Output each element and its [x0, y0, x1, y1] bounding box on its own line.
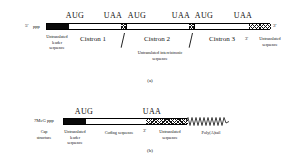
segment-cistron-1 [69, 24, 121, 29]
codon-label-uaa-2: UAA [172, 12, 191, 20]
label-line-1: Untranslated [159, 129, 180, 134]
label-line-2: sequence [152, 56, 167, 61]
label-line-3: sequence [67, 140, 82, 145]
untranslated-leader-label-b: Untranslated leader sequence [64, 129, 85, 146]
mrna-bar-polycistronic [46, 23, 270, 30]
codon-label-aug-1: AUG [66, 12, 85, 20]
codon-label-uaa-b: UAA [143, 108, 162, 116]
segment-untranslated-3prime [249, 24, 271, 29]
label-line-3: sequence [49, 45, 64, 50]
label-line-2: sequence [162, 135, 177, 140]
label-line-2: structure [37, 135, 52, 140]
segment-coding-sequence [86, 119, 146, 124]
label-line-1: Cap [41, 129, 48, 134]
segment-cistron-3 [195, 24, 249, 29]
codon-label-uaa-1: UAA [104, 12, 123, 20]
cap-structure-label: Cap structure [37, 129, 52, 140]
cap-ppp-label: 7MeG ppp [34, 119, 54, 124]
untranslated-leader-label-a: Untranslated leader sequence [46, 34, 67, 51]
cistron-1-label: Cistron 1 [80, 36, 106, 43]
five-prime-ppp-label: ppp [33, 25, 40, 30]
five-prime-end-label: 5' [25, 23, 28, 28]
segment-untranslated-leader [47, 24, 69, 29]
label-line-1: Untranslated [46, 34, 67, 39]
label-line-1: Untranslated [64, 129, 85, 134]
untranslated-3prime-label-a: Untranslated sequence [259, 36, 280, 47]
leader-line-intercistronic-1 [121, 33, 125, 48]
codon-label-uaa-3: UAA [234, 12, 253, 20]
intercistronic-label: Untranslated intercistronic sequence [138, 50, 183, 61]
label-line-1: Untranslated [259, 36, 280, 41]
label-line-1: Untranslated intercistronic [138, 50, 183, 55]
segment-cistron-2 [127, 24, 189, 29]
poly-a-tail-zigzag [186, 115, 230, 128]
leader-line-intercistronic-2 [189, 33, 193, 48]
cistron-2-label: Cistron 2 [144, 36, 170, 43]
coding-sequence-label: Coding sequence [105, 130, 134, 136]
label-line-2: leader [52, 40, 62, 45]
label-line-2: leader [70, 135, 80, 140]
codon-label-aug-3: AUG [195, 12, 214, 20]
untranslated-3prime-label-b: Untranslated sequence [159, 129, 180, 140]
segment-untranslated-leader-b [64, 119, 86, 124]
codon-label-aug-2: AUG [128, 12, 147, 20]
poly-a-tail-label: Poly(A)tail [202, 130, 221, 136]
mrna-bar-monocistronic [63, 118, 187, 125]
codon-label-aug-b: AUG [75, 108, 94, 116]
three-prime-marker-a: 3' [245, 37, 248, 42]
three-prime-marker-b: 3' [143, 129, 146, 134]
panel-b-id: (b) [147, 148, 153, 153]
three-prime-end-label: 3' [273, 23, 276, 28]
panel-a-id: (a) [147, 78, 153, 83]
segment-untranslated-3prime-b [146, 119, 188, 124]
mrna-structure-figure: AUG UAA AUG UAA AUG UAA 5' ppp 3' Untran… [0, 0, 299, 162]
label-line-2: sequence [262, 42, 277, 47]
cistron-3-label: Cistron 3 [209, 36, 235, 43]
